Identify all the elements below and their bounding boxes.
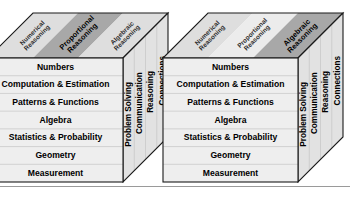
front-row-label: Algebra <box>40 115 72 125</box>
front-row-label: Computation & Estimation <box>2 79 110 89</box>
side-label-2: Communication <box>135 72 144 134</box>
front-row-label: Measurement <box>203 168 259 178</box>
front-row-label: Statistics & Probability <box>9 132 103 142</box>
svg-text:Reasoning: Reasoning <box>321 71 330 113</box>
front-row-label: Statistics & Probability <box>184 132 278 142</box>
front-row-label: Geometry <box>210 150 250 160</box>
figure-canvas: NumericalReasoningProportionalReasoningA… <box>0 0 350 200</box>
front-row-label: Measurement <box>28 168 84 178</box>
front-row-label: Geometry <box>35 150 75 160</box>
svg-text:Communication: Communication <box>310 72 319 134</box>
side-label-2: Communication <box>310 72 319 134</box>
horizontal-rule <box>0 186 350 187</box>
svg-text:Connections: Connections <box>333 55 342 105</box>
front-row-label: Patterns & Functions <box>187 97 274 107</box>
front-row-label: Patterns & Functions <box>12 97 99 107</box>
svg-text:Reasoning: Reasoning <box>146 71 155 113</box>
svg-text:Communication: Communication <box>135 72 144 134</box>
front-row-label: Algebra <box>215 115 247 125</box>
side-label-1: Problem Solving <box>124 82 133 147</box>
side-label-3: Reasoning <box>321 71 330 113</box>
side-label-4: Connections <box>333 55 342 105</box>
front-row-label: Numbers <box>212 62 249 72</box>
svg-text:Problem Solving: Problem Solving <box>299 82 308 147</box>
front-row-label: Numbers <box>37 62 74 72</box>
svg-text:Problem Solving: Problem Solving <box>124 82 133 147</box>
side-label-3: Reasoning <box>146 71 155 113</box>
side-label-1: Problem Solving <box>299 82 308 147</box>
right-cube: NumericalReasoningProportionalReasoningA… <box>163 0 350 200</box>
front-row-label: Computation & Estimation <box>177 79 285 89</box>
